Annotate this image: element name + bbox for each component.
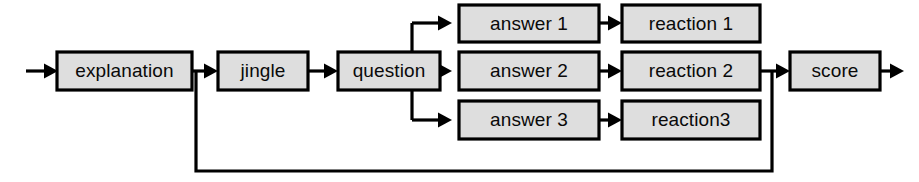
edge-answer1-to-reaction1: [599, 16, 622, 31]
node-answer-3[interactable]: answer 3: [459, 101, 599, 139]
edge-start-to-explanation: [26, 64, 58, 79]
flowchart-canvas: explanation jingle question answer 1 ans…: [0, 0, 919, 182]
node-reaction-3[interactable]: reaction3: [622, 101, 760, 139]
node-reaction-1[interactable]: reaction 1: [622, 5, 760, 42]
edge-jingle-to-question: [308, 64, 338, 79]
node-answer-3-label: answer 3: [490, 109, 568, 130]
flowchart-diagram: explanation jingle question answer 1 ans…: [0, 0, 919, 182]
node-reaction-2-label: reaction 2: [649, 60, 733, 81]
node-question-label: question: [353, 60, 426, 81]
edge-answer3-to-reaction3: [599, 113, 622, 128]
edge-answer2-to-reaction2: [599, 64, 622, 79]
edge-question-to-answer1: [412, 16, 452, 31]
node-score-label: score: [812, 60, 859, 81]
node-explanation[interactable]: explanation: [57, 52, 192, 90]
node-answer-1[interactable]: answer 1: [459, 5, 599, 42]
node-score[interactable]: score: [790, 52, 880, 90]
node-answer-2-label: answer 2: [490, 60, 568, 81]
edge-score-to-end: [880, 64, 904, 79]
edge-reaction2-to-score: [760, 64, 790, 79]
node-reaction-2[interactable]: reaction 2: [622, 52, 760, 90]
node-jingle-label: jingle: [240, 60, 286, 81]
node-explanation-label: explanation: [75, 60, 173, 81]
node-reaction-3-label: reaction3: [651, 109, 730, 130]
node-question[interactable]: question: [338, 52, 440, 90]
node-reaction-1-label: reaction 1: [649, 13, 733, 34]
node-jingle[interactable]: jingle: [218, 52, 308, 90]
node-answer-2[interactable]: answer 2: [459, 52, 599, 90]
edge-question-to-answer3: [412, 113, 452, 128]
node-answer-1-label: answer 1: [490, 13, 568, 34]
